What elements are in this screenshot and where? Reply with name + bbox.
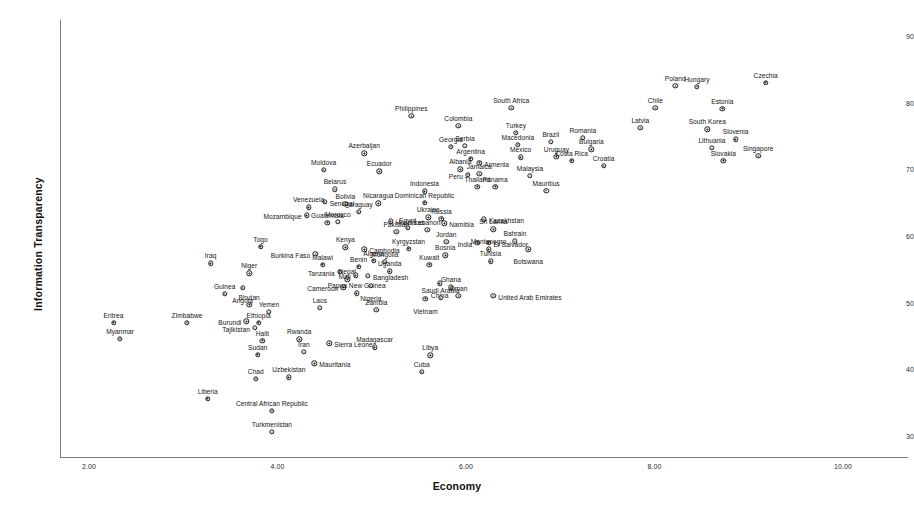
data-point[interactable] — [427, 262, 432, 267]
data-point[interactable] — [205, 396, 210, 401]
data-point[interactable] — [543, 188, 548, 193]
data-point[interactable] — [409, 113, 414, 118]
data-point[interactable] — [371, 258, 376, 263]
data-point[interactable] — [240, 285, 245, 290]
data-point[interactable] — [705, 127, 710, 132]
data-point-label: Libya — [422, 344, 438, 351]
data-point[interactable] — [405, 225, 410, 230]
data-point[interactable] — [365, 273, 370, 278]
data-point-label: Liberia — [198, 388, 218, 395]
data-point[interactable] — [394, 229, 399, 234]
data-point[interactable] — [332, 187, 337, 192]
data-point[interactable] — [374, 307, 379, 312]
data-point[interactable] — [569, 158, 574, 163]
data-point[interactable] — [356, 209, 361, 214]
data-point[interactable] — [111, 320, 116, 325]
data-point[interactable] — [456, 123, 461, 128]
data-point[interactable] — [425, 227, 430, 232]
data-point[interactable] — [222, 291, 227, 296]
x-axis-line — [60, 457, 908, 458]
data-point[interactable] — [343, 245, 348, 250]
data-point[interactable] — [306, 205, 311, 210]
data-point[interactable] — [301, 349, 306, 354]
y-tick-label: 50 — [868, 299, 914, 306]
data-point[interactable] — [673, 83, 678, 88]
data-point[interactable] — [509, 105, 514, 110]
data-point[interactable] — [269, 408, 274, 413]
data-point[interactable] — [491, 293, 496, 298]
data-point[interactable] — [526, 247, 531, 252]
data-point[interactable] — [321, 167, 326, 172]
data-point[interactable] — [653, 105, 658, 110]
data-point[interactable] — [327, 341, 332, 346]
data-point[interactable] — [755, 153, 760, 158]
data-point[interactable] — [253, 376, 258, 381]
data-point[interactable] — [184, 320, 189, 325]
data-point-label: Turkey — [506, 122, 526, 129]
data-point[interactable] — [362, 151, 367, 156]
data-point[interactable] — [312, 361, 317, 366]
data-point[interactable] — [423, 296, 428, 301]
data-point[interactable] — [488, 259, 493, 264]
data-point[interactable] — [372, 345, 377, 350]
data-point[interactable] — [601, 163, 606, 168]
data-point[interactable] — [721, 158, 726, 163]
data-point[interactable] — [456, 293, 461, 298]
data-point[interactable] — [448, 144, 453, 149]
data-point[interactable] — [247, 302, 252, 307]
data-point-label: Tunisia — [480, 250, 501, 257]
x-tick-label: 2.00 — [82, 463, 96, 470]
data-point-label: Bolivia — [335, 193, 355, 200]
data-point[interactable] — [266, 309, 271, 314]
data-point[interactable] — [733, 137, 738, 142]
data-point-label: Burkina Faso — [271, 252, 310, 259]
data-point[interactable] — [320, 262, 325, 267]
data-point[interactable] — [325, 220, 330, 225]
data-point[interactable] — [244, 319, 249, 324]
y-tick-label: 90 — [868, 33, 914, 40]
data-point[interactable] — [256, 320, 261, 325]
data-point-label: Zambia — [365, 299, 387, 306]
data-point-label: Cuba — [414, 361, 430, 368]
data-point[interactable] — [518, 155, 523, 160]
data-point[interactable] — [589, 147, 594, 152]
data-point[interactable] — [354, 291, 359, 296]
data-point[interactable] — [475, 184, 480, 189]
data-point[interactable] — [208, 261, 213, 266]
data-point[interactable] — [438, 295, 443, 300]
data-point[interactable] — [356, 264, 361, 269]
data-point[interactable] — [304, 213, 309, 218]
data-point-label: Central African Republic — [236, 400, 308, 407]
data-point-label: Poland — [665, 75, 686, 82]
data-point[interactable] — [286, 375, 291, 380]
data-point[interactable] — [720, 106, 725, 111]
data-point[interactable] — [117, 336, 122, 341]
data-point[interactable] — [269, 429, 274, 434]
data-point[interactable] — [527, 173, 532, 178]
data-point[interactable] — [422, 200, 427, 205]
data-point[interactable] — [427, 353, 432, 358]
data-point[interactable] — [317, 305, 322, 310]
data-point[interactable] — [376, 201, 381, 206]
data-point-label: Nicaragua — [363, 192, 394, 199]
data-point[interactable] — [493, 184, 498, 189]
data-point-label: Croatia — [593, 155, 615, 162]
data-point[interactable] — [638, 125, 643, 130]
data-point[interactable] — [442, 221, 447, 226]
data-point[interactable] — [258, 244, 263, 249]
data-point[interactable] — [255, 352, 260, 357]
data-point[interactable] — [491, 227, 496, 232]
data-point[interactable] — [406, 246, 411, 251]
data-point[interactable] — [377, 169, 382, 174]
data-point[interactable] — [419, 369, 424, 374]
data-point[interactable] — [763, 80, 768, 85]
data-point[interactable] — [247, 271, 252, 276]
data-point[interactable] — [548, 139, 553, 144]
data-point[interactable] — [353, 273, 358, 278]
y-axis-line — [60, 20, 61, 458]
data-point[interactable] — [443, 253, 448, 258]
data-point[interactable] — [260, 338, 265, 343]
data-point[interactable] — [335, 219, 340, 224]
data-point[interactable] — [694, 84, 699, 89]
data-point-label: Benin — [350, 256, 367, 263]
